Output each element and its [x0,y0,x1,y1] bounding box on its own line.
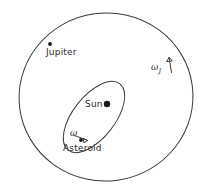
label-jupiter: Jupiter [46,47,77,57]
label-omega-asteroid: ω [70,128,78,138]
omega-symbol: ω [151,62,159,72]
label-asteroid: Asteroid [63,143,102,153]
orbital-diagram: Jupiter Sun Asteroid ωJ ω [0,0,204,194]
label-sun: Sun [85,99,103,109]
sun-marker [104,101,110,107]
label-omega-jupiter: ωJ [151,62,161,76]
jupiter-orbit [8,2,204,193]
jupiter-orbit-path [8,2,204,193]
jupiter-marker [48,42,52,46]
diagram-canvas [0,0,204,194]
omega-jupiter-arrow-icon [167,58,172,73]
omega-subscript-j: J [159,67,162,75]
